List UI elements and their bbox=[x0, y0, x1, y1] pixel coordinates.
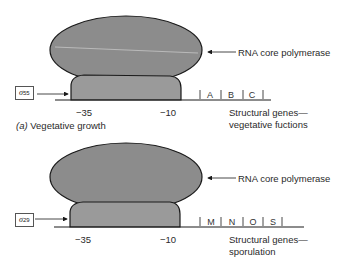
sigma-29-label: σ29 bbox=[15, 213, 34, 227]
gene-c: C bbox=[242, 90, 262, 100]
core-polymerase-label-b: RNA core polymerase bbox=[238, 173, 330, 184]
sigma-factor-shape bbox=[70, 202, 180, 227]
structural-genes-label-a-line1: Structural genes— bbox=[229, 107, 308, 118]
position-minus-35-a: −35 bbox=[76, 107, 92, 118]
panel-b-graphic bbox=[35, 143, 304, 227]
caption-letter: (a) bbox=[16, 120, 28, 131]
sigma-number: 55 bbox=[23, 90, 30, 96]
panel-a-caption: (a) Vegetative growth bbox=[16, 120, 106, 131]
core-polymerase-label-a: RNA core polymerase bbox=[238, 47, 330, 58]
structural-genes-label-b-line2: sporulation bbox=[229, 246, 275, 257]
structural-genes-label-a-line2: vegetative fuctions bbox=[229, 119, 308, 130]
gene-o: O bbox=[243, 217, 263, 227]
sigma-55-label: σ55 bbox=[15, 86, 34, 100]
sigma-factor-shape bbox=[71, 75, 181, 100]
gene-b: B bbox=[221, 90, 241, 100]
sigma-number: 29 bbox=[23, 217, 30, 223]
position-minus-10-b: −10 bbox=[160, 234, 176, 245]
caption-text: Vegetative growth bbox=[30, 120, 106, 131]
gene-n: N bbox=[222, 217, 242, 227]
diagram-canvas bbox=[0, 0, 338, 263]
gene-s: S bbox=[263, 217, 283, 227]
rna-core-polymerase-shape bbox=[50, 143, 202, 211]
gene-a: A bbox=[200, 90, 220, 100]
panel-a-graphic bbox=[37, 16, 271, 100]
structural-genes-label-b-line1: Structural genes— bbox=[229, 234, 308, 245]
gene-m: M bbox=[201, 217, 221, 227]
position-minus-35-b: −35 bbox=[75, 234, 91, 245]
position-minus-10-a: −10 bbox=[160, 107, 176, 118]
